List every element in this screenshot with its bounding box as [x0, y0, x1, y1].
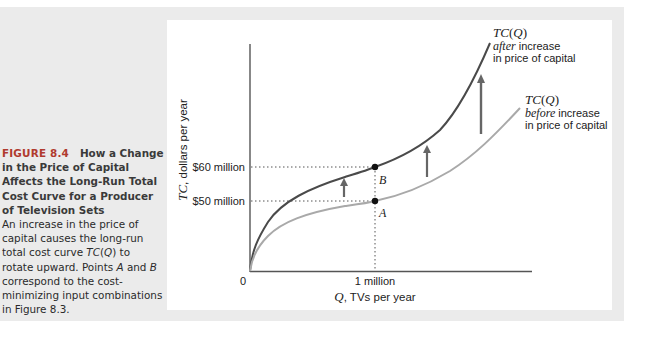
x-axis-title: Q, TVs per year: [334, 289, 416, 304]
y-tick-50m: $50 million: [192, 195, 245, 207]
svg-text:in price of capital: in price of capital: [525, 119, 608, 131]
tc-before-curve: [250, 108, 520, 271]
svg-text:TC(Q): TC(Q): [525, 92, 559, 107]
origin-label: 0: [240, 275, 246, 287]
tc-after-curve: [250, 43, 490, 271]
shift-arrow-small: [340, 178, 348, 197]
point-a: [372, 198, 378, 204]
svg-text:in price of capital: in price of capital: [493, 52, 576, 64]
y-tick-60m: $60 million: [192, 161, 245, 173]
tc-before-label: TC(Q) before increase in price of capita…: [525, 92, 608, 131]
point-b-label: B: [379, 173, 387, 187]
x-tick-1m: 1 million: [355, 275, 395, 287]
point-b: [372, 164, 378, 170]
svg-text:before increase: before increase: [525, 106, 600, 120]
shift-arrow-large: [477, 74, 485, 134]
svg-text:TC(Q): TC(Q): [493, 25, 527, 40]
point-a-label: A: [378, 206, 387, 220]
y-axis-title: TC, dollars per year: [175, 99, 190, 201]
tc-chart: B A $60 million $50 million 0 1 million …: [0, 0, 651, 337]
tc-after-label: TC(Q) after increase in price of capital: [493, 25, 576, 64]
svg-text:after increase: after increase: [493, 39, 560, 53]
shift-arrow-medium: [423, 145, 431, 177]
